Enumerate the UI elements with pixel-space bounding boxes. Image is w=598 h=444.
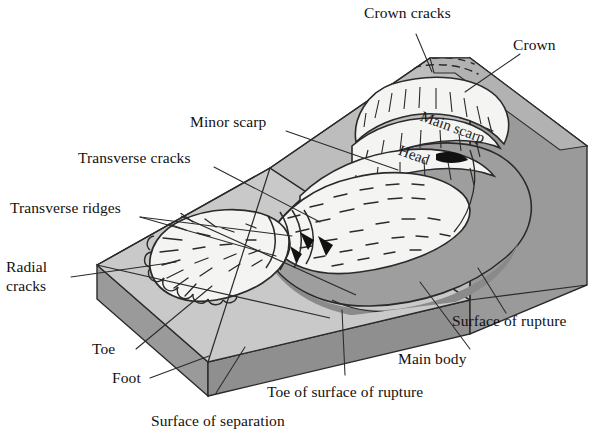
diagram-artwork [0,0,598,444]
label-toe-of-surface-of-rupture: Toe of surface of rupture [267,383,423,400]
label-surface-of-rupture: Surface of rupture [452,312,567,329]
label-crown: Crown [513,36,556,53]
label-radial-cracks: Radialcracks [6,257,47,295]
label-main-body: Main body [398,350,467,367]
label-transverse-ridges: Transverse ridges [10,199,121,216]
label-surface-of-separation: Surface of separation [151,412,285,429]
label-toe: Toe [92,340,115,357]
label-radial-cracks-line2: cracks [6,277,46,294]
landslide-scar [145,53,532,318]
label-radial-cracks-line1: Radial [6,258,47,275]
label-foot: Foot [112,369,141,386]
landslide-block-diagram: Crown cracks Crown Minor scarp Transvers… [0,0,598,444]
label-crown-cracks: Crown cracks [364,4,451,21]
label-transverse-cracks: Transverse cracks [78,149,191,166]
label-minor-scarp: Minor scarp [190,113,266,130]
